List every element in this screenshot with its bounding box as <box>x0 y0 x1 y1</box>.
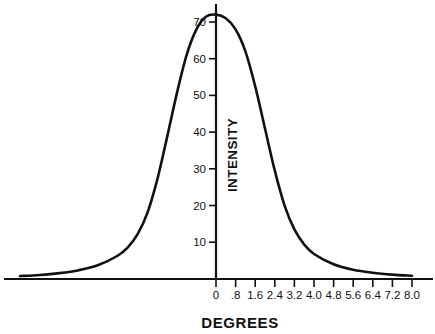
x-tick-label-8-0: 8.0 <box>404 289 420 301</box>
x-tick-label-1-6: 1.6 <box>247 289 263 301</box>
x-tick-label-0-8: .8 <box>231 289 241 301</box>
y-tick-label-50: 50 <box>193 89 206 101</box>
y-tick-label-40: 40 <box>193 126 206 138</box>
y-tick-label-10: 10 <box>193 236 206 248</box>
y-axis-title: INTENSITY <box>225 118 240 192</box>
chart-page: 70 60 50 40 30 20 10 0 .8 1.6 2 <box>0 0 435 334</box>
x-tick-label-7-2: 7.2 <box>384 289 400 301</box>
y-tick-label-60: 60 <box>193 53 206 65</box>
x-tick-label-4-0: 4.0 <box>306 289 322 301</box>
x-axis-ticks <box>216 279 412 287</box>
x-axis-tick-labels: 0 .8 1.6 2.4 3.2 4.0 4.8 5.6 6.4 7.2 8.0 <box>213 289 420 301</box>
x-tick-label-0: 0 <box>213 289 219 301</box>
y-axis-tick-labels: 70 60 50 40 30 20 10 <box>193 16 206 248</box>
y-tick-label-30: 30 <box>193 163 206 175</box>
x-tick-label-3-2: 3.2 <box>286 289 302 301</box>
x-tick-label-2-4: 2.4 <box>267 289 284 301</box>
y-tick-label-20: 20 <box>193 200 206 212</box>
x-tick-label-6-4: 6.4 <box>365 289 382 301</box>
x-axis-title: DEGREES <box>201 314 279 331</box>
x-tick-label-5-6: 5.6 <box>345 289 361 301</box>
x-tick-label-4-8: 4.8 <box>326 289 342 301</box>
intensity-vs-degrees-chart: 70 60 50 40 30 20 10 0 .8 1.6 2 <box>0 0 435 334</box>
